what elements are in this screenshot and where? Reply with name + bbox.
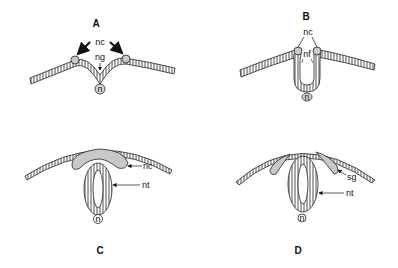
neural-crest-cell-right [122,55,130,63]
nt-label: nt [142,180,150,190]
panel-d: D n sg nt [236,152,375,256]
ectoderm-right [318,50,375,70]
nc-label: nc [95,37,105,47]
nc-label: nc [303,27,313,37]
panel-a: A n nc ng [30,18,175,94]
nf-arrow-left [302,59,303,63]
neural-development-diagram: A n nc ng B n nc nf [0,0,398,268]
sg-label: sg [347,172,357,182]
panel-a-label: A [92,18,99,29]
nc-label: nc [143,161,153,171]
notochord-label: n [304,92,309,102]
nc-line-left [298,37,304,47]
panel-b-label: B [302,11,309,22]
nf-label: nf [303,49,311,59]
notochord-label: n [95,214,100,224]
spinal-ganglion-right [316,152,338,174]
panel-c-label: C [96,245,103,256]
panel-b: B n nc nf [240,11,375,102]
nf-arrow-right [311,59,313,63]
nc-arrow-left [78,42,90,54]
notochord-label: n [299,213,304,223]
ectoderm-left [240,50,297,77]
panel-d-label: D [294,245,301,256]
neural-canal [298,164,308,204]
nc-arrow-right [110,42,122,53]
notochord-label: n [97,84,102,94]
neural-crest-cell-left [294,47,302,55]
neural-crest-cell-left [71,56,79,64]
neural-canal [93,170,103,208]
neural-crest-cell-right [313,47,321,55]
ng-label: ng [95,52,105,62]
panel-c: C n nc nt [25,149,172,256]
nc-line-right [312,37,317,47]
nt-label: nt [346,188,354,198]
sg-arrow [338,170,346,175]
